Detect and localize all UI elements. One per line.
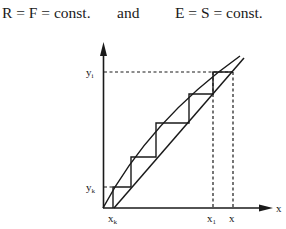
y-axis-arrow-icon bbox=[100, 42, 107, 56]
x-label: x bbox=[229, 212, 235, 224]
stage-diagram: yi yk xk x1 x x bbox=[0, 0, 286, 229]
y-axis bbox=[100, 42, 107, 208]
y-i-label: yi bbox=[86, 66, 94, 80]
equilibrium-curve bbox=[103, 56, 240, 208]
y-k-label: yk bbox=[86, 181, 96, 195]
x-1-label: x1 bbox=[207, 212, 217, 226]
x-axis-arrow-icon bbox=[259, 205, 273, 212]
x-k-label: xk bbox=[108, 212, 118, 226]
operating-line bbox=[114, 58, 244, 208]
x-axis bbox=[103, 205, 273, 212]
x-axis-label: x bbox=[276, 202, 282, 214]
